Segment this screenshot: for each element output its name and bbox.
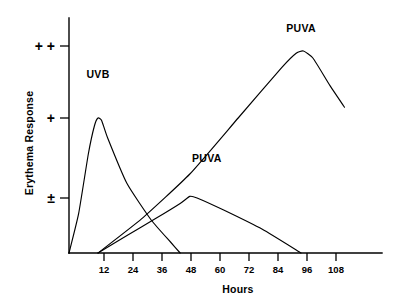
erythema-response-chart: + + + ± 12 24 36 48 60 72 84 96 108 Hour… xyxy=(0,0,406,304)
x-tick-label-36: 36 xyxy=(157,264,168,275)
series-label-puva-late: PUVA xyxy=(286,22,316,34)
y-axis-ticks xyxy=(60,46,69,198)
y-tick-label-plus: + xyxy=(47,110,55,126)
y-axis-title: Erythema Response xyxy=(23,91,35,195)
x-tick-label-96: 96 xyxy=(302,264,313,275)
series-curve-puva-early xyxy=(98,196,301,253)
x-tick-label-60: 60 xyxy=(215,264,226,275)
y-tick-label-plusplus: + + xyxy=(35,38,55,54)
y-tick-label-plusminus: ± xyxy=(47,190,55,206)
x-tick-label-72: 72 xyxy=(244,264,255,275)
x-axis-ticks xyxy=(104,253,336,261)
x-tick-label-24: 24 xyxy=(128,264,139,275)
x-tick-label-12: 12 xyxy=(99,264,110,275)
x-tick-label-84: 84 xyxy=(273,264,284,275)
x-tick-label-48: 48 xyxy=(186,264,197,275)
series-label-puva-early: PUVA xyxy=(192,152,222,164)
x-tick-label-108: 108 xyxy=(328,264,344,275)
chart-canvas: + + + ± 12 24 36 48 60 72 84 96 108 Hour… xyxy=(0,0,406,304)
x-axis-title: Hours xyxy=(222,283,253,295)
series-label-uvb: UVB xyxy=(86,68,109,80)
